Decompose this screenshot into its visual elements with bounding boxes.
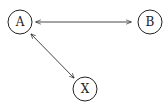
node-b: B xyxy=(138,10,162,34)
diagram-canvas: A B X xyxy=(0,0,168,108)
node-a: A xyxy=(8,10,32,34)
node-x-label: X xyxy=(81,82,90,96)
node-x: X xyxy=(73,77,97,101)
node-a-label: A xyxy=(15,15,25,29)
node-b-label: B xyxy=(146,15,155,29)
edge-a-x xyxy=(31,34,74,78)
